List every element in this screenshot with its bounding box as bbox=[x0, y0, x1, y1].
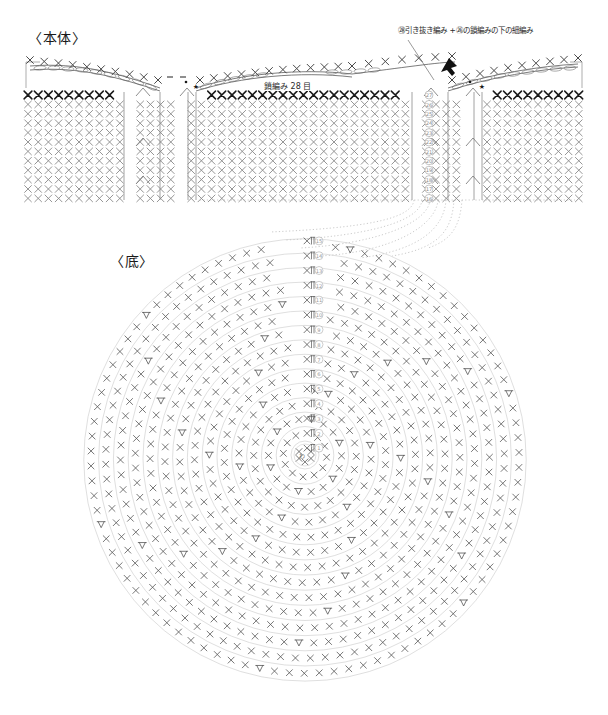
single-crochet-symbol bbox=[555, 148, 562, 155]
single-crochet-symbol bbox=[229, 418, 235, 424]
single-crochet-symbol bbox=[443, 139, 450, 146]
single-crochet-symbol bbox=[76, 148, 83, 155]
single-crochet-symbol bbox=[326, 623, 332, 629]
single-crochet-symbol bbox=[167, 195, 174, 202]
single-crochet-symbol bbox=[369, 408, 375, 414]
single-crochet-symbol bbox=[310, 176, 317, 183]
single-crochet-symbol bbox=[505, 64, 512, 71]
single-crochet-symbol bbox=[516, 464, 522, 470]
single-crochet-symbol bbox=[388, 385, 394, 391]
single-crochet-symbol bbox=[218, 148, 225, 155]
single-crochet-symbol bbox=[127, 515, 133, 521]
single-crochet-symbol bbox=[106, 129, 113, 136]
single-crochet-symbol bbox=[306, 595, 312, 601]
single-crochet-symbol bbox=[494, 195, 501, 202]
single-crochet-symbol bbox=[304, 342, 310, 348]
single-crochet-symbol bbox=[106, 167, 113, 174]
single-crochet-symbol bbox=[266, 416, 272, 422]
single-crochet-symbol bbox=[402, 167, 409, 174]
single-crochet-symbol bbox=[351, 176, 358, 183]
single-crochet-symbol bbox=[25, 148, 32, 155]
single-crochet-symbol bbox=[192, 515, 198, 521]
single-crochet-symbol bbox=[338, 304, 344, 310]
single-crochet-symbol bbox=[504, 139, 511, 146]
single-crochet-symbol bbox=[181, 488, 187, 494]
single-crochet-symbol bbox=[484, 139, 491, 146]
single-crochet-symbol bbox=[295, 610, 301, 616]
single-crochet-symbol bbox=[432, 54, 439, 61]
single-crochet-symbol bbox=[76, 120, 83, 127]
increase-symbol bbox=[205, 452, 213, 458]
single-crochet-symbol bbox=[461, 576, 467, 582]
single-crochet-symbol bbox=[369, 611, 375, 617]
single-crochet-symbol bbox=[99, 389, 105, 395]
single-crochet-symbol bbox=[319, 563, 325, 569]
single-crochet-symbol bbox=[269, 157, 276, 164]
single-crochet-symbol bbox=[524, 110, 531, 117]
single-crochet-symbol bbox=[373, 390, 379, 396]
single-crochet-symbol bbox=[545, 176, 552, 183]
single-crochet-symbol bbox=[88, 463, 94, 469]
single-crochet-symbol bbox=[467, 416, 473, 422]
increase-symbol bbox=[267, 465, 275, 471]
single-crochet-symbol bbox=[341, 129, 348, 136]
round-number-badge: 20 bbox=[425, 157, 433, 165]
single-crochet-symbol bbox=[320, 167, 327, 174]
single-crochet-symbol bbox=[96, 101, 103, 108]
single-crochet-symbol bbox=[299, 580, 305, 586]
single-crochet-symbol bbox=[153, 412, 159, 418]
single-crochet-symbol bbox=[392, 129, 399, 136]
single-crochet-symbol bbox=[65, 167, 72, 174]
single-crochet-symbol bbox=[104, 476, 110, 482]
single-crochet-symbol bbox=[65, 110, 72, 117]
round-number-badge: 24 bbox=[425, 119, 433, 127]
single-crochet-symbol bbox=[212, 329, 218, 335]
single-crochet-symbol bbox=[144, 392, 150, 398]
single-crochet-symbol bbox=[198, 110, 205, 117]
single-crochet-symbol bbox=[198, 101, 205, 108]
single-crochet-symbol bbox=[382, 157, 389, 164]
single-crochet-symbol bbox=[163, 334, 169, 340]
star-markers: ★ ★ bbox=[193, 83, 485, 91]
increase-symbol bbox=[255, 370, 263, 376]
single-crochet-symbol bbox=[106, 195, 113, 202]
single-crochet-symbol bbox=[356, 568, 362, 574]
single-crochet-symbol bbox=[402, 646, 408, 652]
single-crochet-symbol bbox=[55, 120, 62, 127]
single-crochet-symbol bbox=[361, 139, 368, 146]
single-crochet-symbol bbox=[280, 450, 286, 456]
single-crochet-symbol bbox=[290, 195, 297, 202]
single-crochet-symbol bbox=[96, 148, 103, 155]
single-crochet-symbol bbox=[173, 324, 179, 330]
single-crochet-symbol bbox=[364, 429, 370, 435]
single-crochet-symbol bbox=[266, 542, 272, 548]
single-crochet-symbol bbox=[208, 512, 214, 518]
single-crochet-symbol bbox=[338, 453, 344, 459]
single-crochet-symbol bbox=[375, 658, 381, 664]
increase-symbol bbox=[294, 489, 302, 495]
single-crochet-symbol bbox=[453, 110, 460, 117]
single-crochet-symbol bbox=[513, 494, 519, 500]
single-crochet-symbol bbox=[453, 120, 460, 127]
single-crochet-symbol bbox=[479, 577, 485, 583]
single-crochet-symbol bbox=[505, 523, 511, 529]
single-crochet-symbol bbox=[336, 465, 342, 471]
base-stitch-symbols bbox=[88, 237, 522, 676]
single-crochet-symbol bbox=[418, 407, 424, 413]
single-crochet-symbol bbox=[284, 389, 290, 395]
single-crochet-symbol bbox=[355, 357, 361, 363]
increase-symbol bbox=[256, 665, 264, 671]
single-crochet-symbol bbox=[391, 328, 397, 334]
single-crochet-symbol bbox=[194, 624, 200, 630]
single-crochet-symbol bbox=[55, 157, 62, 164]
single-crochet-symbol bbox=[269, 120, 276, 127]
chain-hook-symbol bbox=[311, 326, 315, 333]
single-crochet-symbol bbox=[380, 509, 386, 515]
single-crochet-symbol bbox=[236, 450, 242, 456]
increase-symbol bbox=[343, 504, 351, 510]
single-crochet-symbol bbox=[514, 186, 521, 193]
single-crochet-symbol bbox=[443, 148, 450, 155]
single-crochet-symbol bbox=[484, 425, 490, 431]
single-crochet-symbol bbox=[404, 382, 410, 388]
single-crochet-symbol bbox=[249, 584, 255, 590]
